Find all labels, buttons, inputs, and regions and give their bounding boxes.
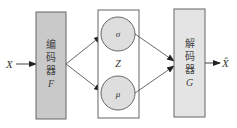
edge-sigma-decoder [135, 34, 174, 61]
vae-diagram: X 编 码 器 F σ Z μ 解 码 器 G X̂ [0, 0, 237, 128]
mu-label: μ [115, 89, 121, 99]
output-label: X̂ [221, 57, 230, 69]
input-label: X [5, 58, 14, 70]
encoder-label-3: 器 [46, 65, 56, 76]
decoder-label-2: 码 [185, 51, 195, 62]
latent-block: σ Z μ [98, 10, 139, 118]
edge-mu-decoder [135, 66, 174, 93]
sigma-label: σ [116, 29, 121, 39]
decoder-block: 解 码 器 G [174, 9, 205, 117]
decoder-label-3: 器 [185, 64, 195, 75]
encoder-block: 编 码 器 F [36, 12, 66, 119]
decoder-label-1: 解 [185, 37, 195, 49]
encoder-label-1: 编 [46, 38, 56, 50]
edge-encoder-sigma [66, 36, 101, 64]
latent-label: Z [115, 58, 121, 69]
edge-encoder-mu [66, 64, 101, 91]
decoder-symbol: G [186, 77, 193, 88]
encoder-label-2: 码 [46, 52, 56, 63]
encoder-symbol: F [47, 78, 55, 89]
